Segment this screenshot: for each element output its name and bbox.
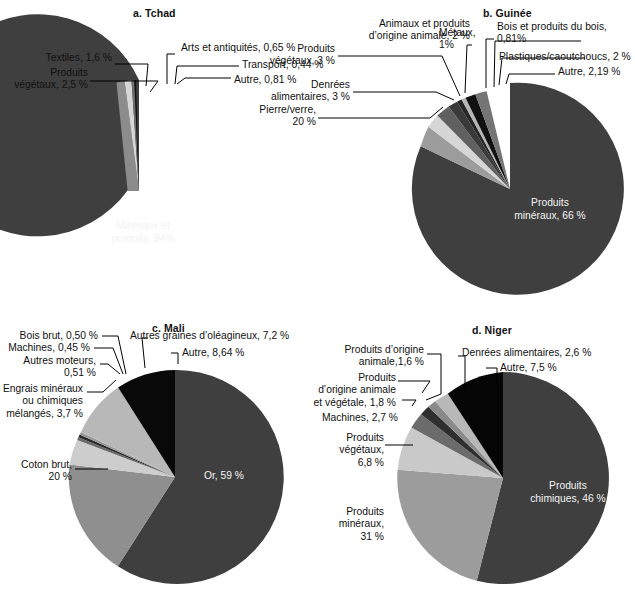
inner-label-niger-chimiques: Produits chimiques, 46 %	[508, 480, 628, 505]
callout-niger-animale: Produits d’origine animale,1,6 %	[298, 344, 424, 369]
inner-label-guinee-mineraux: Produits minéraux, 66 %	[490, 197, 610, 222]
callout-niger-animale-vegetale: Produits d’origine animale et végétale, …	[296, 372, 396, 409]
callout-mali-machines: Machines, 0,45 %	[0, 342, 90, 354]
callout-mali-bois: Bois brut, 0,50 %	[0, 330, 98, 342]
callout-mali-autre: Autre, 8,64 %	[182, 347, 292, 359]
callout-guinee-bois: Bois et produits du bois, 0,81%	[497, 21, 632, 46]
callout-niger-machines: Machines, 2,7 %	[296, 412, 398, 424]
callout-mali-coton: Coton brut, 20 %	[0, 459, 72, 484]
callout-guinee-pierre: Pierre/verre, 20 %	[198, 104, 316, 129]
callout-tchad-vegetaux: Produits végétaux, 2,5 %	[2, 67, 88, 92]
panel-title-niger: d. Niger	[472, 324, 512, 336]
pie-svg-niger	[397, 372, 609, 584]
callout-niger-denrees: Denrées alimentaires, 2,6 %	[462, 347, 635, 359]
callout-mali-engrais: Engrais minéraux ou chimiques mélangés, …	[0, 383, 83, 420]
callout-guinee-denrees: Denrées alimentaires, 3 %	[224, 79, 350, 104]
panel-niger: d. Niger	[310, 300, 629, 596]
callout-mali-graines: Autres graines d’oléagineux, 7,2 %	[130, 330, 320, 342]
callout-guinee-metaux: Métaux, 1%	[439, 27, 487, 52]
callout-guinee-autre: Autre, 2,19 %	[558, 66, 635, 78]
callout-niger-autre: Autre, 7,5 %	[500, 362, 610, 374]
inner-label-mali-or: Or, 59 %	[184, 470, 264, 483]
pie-niger	[397, 372, 609, 584]
callout-guinee-vegetaux: Produits végétaux, 3 %	[244, 43, 335, 68]
callout-niger-mineraux: Produits minéraux, 31 %	[300, 506, 384, 543]
callout-tchad-textiles: Textiles, 1,6 %	[28, 52, 112, 64]
panel-mali: c. Mali	[0, 300, 310, 596]
callout-mali-moteurs: Autres moteurs, 0,51 %	[0, 355, 96, 380]
callout-guinee-plastiques: Plastiques/caoutchoucs, 2 %	[499, 51, 635, 63]
panel-guinee: b. Guinée	[310, 0, 629, 300]
inner-label-tchad-mineraux: Minéraux et produits, 94%	[93, 220, 193, 245]
callout-niger-vegetaux: Produits végétaux, 6,8 %	[300, 432, 384, 469]
